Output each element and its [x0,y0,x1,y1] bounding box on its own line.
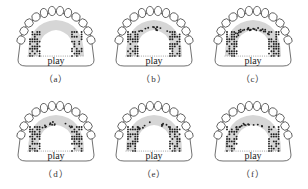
panel-caption: （f） [203,167,303,180]
play-label: play [47,150,64,161]
panel-caption: （a） [6,72,106,85]
dental-arch-diagram: play [6,0,106,72]
dental-arch-diagram: play [203,95,303,167]
arch-panel-f: play（f） [203,95,303,187]
panel-caption: （d） [6,167,106,180]
dental-arch-diagram: play [203,0,303,72]
tooth-icon [146,101,154,111]
tooth-icon [56,101,64,111]
panel-caption: （e） [104,167,204,180]
play-label: play [244,55,261,66]
tooth-icon [253,6,261,16]
tooth-icon [154,101,162,111]
dental-arch-diagram: play [104,95,204,167]
tooth-icon [56,6,64,16]
panel-caption: （c） [203,72,303,85]
play-label: play [244,150,261,161]
panel-caption: （b） [104,72,204,85]
tooth-icon [253,101,261,111]
tooth-icon [48,6,56,16]
tooth-icon [245,101,253,111]
arch-panel-a: play（a） [6,0,106,92]
tooth-icon [154,6,162,16]
arch-panel-e: play（e） [104,95,204,187]
tooth-icon [48,101,56,111]
play-label: play [145,150,162,161]
tooth-icon [245,6,253,16]
arch-panel-b: play（b） [104,0,204,92]
dental-arch-diagram: play [6,95,106,167]
dental-arch-diagram: play [104,0,204,72]
tooth-icon [146,6,154,16]
play-label: play [145,55,162,66]
arch-panel-c: play（c） [203,0,303,92]
arch-panel-d: play（d） [6,95,106,187]
play-label: play [47,55,64,66]
